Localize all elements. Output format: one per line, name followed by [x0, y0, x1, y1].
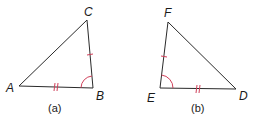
- double-tick-mark-ab-1: [54, 83, 55, 91]
- angle-arc-e: [162, 75, 174, 88]
- triangle-abc-outline: [19, 20, 93, 88]
- single-tick-mark-ef: [161, 56, 167, 57]
- single-tick-mark-bc: [87, 54, 93, 55]
- diagram-canvas: C A B (a) F E D (b): [0, 0, 253, 126]
- double-tick-mark-ed-1: [196, 85, 197, 93]
- vertex-label-e: E: [147, 91, 156, 105]
- triangle-def: F E D (b): [147, 6, 248, 114]
- triangle-def-outline: [160, 22, 236, 89]
- double-tick-mark-ed-2: [199, 85, 200, 93]
- caption-b: (b): [191, 102, 204, 114]
- triangle-abc: C A B (a): [5, 5, 104, 114]
- vertex-label-f: F: [164, 6, 172, 20]
- double-tick-mark-ab-2: [57, 83, 58, 91]
- vertex-label-b: B: [96, 89, 104, 103]
- angle-arc-b: [81, 76, 92, 88]
- vertex-label-a: A: [5, 81, 14, 95]
- caption-a: (a): [48, 102, 61, 114]
- vertex-label-c: C: [84, 5, 93, 19]
- vertex-label-d: D: [239, 89, 248, 103]
